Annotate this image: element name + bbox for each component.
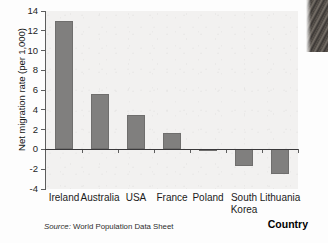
bar bbox=[55, 21, 74, 150]
paper-grain-texture bbox=[46, 11, 298, 189]
y-tick-label: 12 bbox=[27, 26, 38, 36]
y-tick-label: -2 bbox=[30, 164, 38, 174]
y-tick-mark bbox=[41, 189, 46, 190]
source-caption: Source: World Population Data Sheet bbox=[44, 222, 173, 231]
y-tick-label: 2 bbox=[33, 125, 38, 135]
y-tick-mark bbox=[41, 169, 46, 170]
x-category-label-line2: Korea bbox=[220, 204, 268, 216]
source-value: World Population Data Sheet bbox=[73, 222, 173, 231]
x-tick-mark bbox=[298, 149, 299, 153]
bar bbox=[163, 133, 182, 150]
y-tick-label: 6 bbox=[33, 85, 38, 95]
y-tick-label: 4 bbox=[33, 105, 38, 115]
y-tick-mark bbox=[41, 90, 46, 91]
y-tick-label: 10 bbox=[27, 46, 38, 56]
y-tick-label: 14 bbox=[27, 6, 38, 16]
y-axis-line bbox=[45, 11, 46, 190]
bar bbox=[127, 115, 146, 150]
y-tick-label: 8 bbox=[33, 65, 38, 75]
y-tick-mark bbox=[41, 129, 46, 130]
y-axis-title: Net migration rate (per 1,000) bbox=[16, 10, 27, 170]
x-category-label: Lithuania bbox=[256, 192, 304, 204]
y-tick-mark bbox=[41, 11, 46, 12]
source-label: Source: bbox=[44, 222, 71, 231]
y-tick-label: 0 bbox=[33, 144, 38, 154]
y-tick-mark bbox=[41, 70, 46, 71]
y-tick-mark bbox=[41, 50, 46, 51]
scan-edge-artifact bbox=[306, 0, 328, 52]
bar bbox=[271, 149, 290, 174]
zero-baseline bbox=[45, 149, 298, 150]
bar bbox=[91, 94, 110, 149]
y-tick-label: -4 bbox=[30, 184, 38, 194]
plot-area bbox=[46, 11, 298, 189]
figure-container: 14121086420-2-4 Net migration rate (per … bbox=[0, 0, 328, 243]
x-axis-title: Country bbox=[268, 218, 308, 230]
bar bbox=[235, 149, 254, 166]
y-tick-mark bbox=[41, 109, 46, 110]
y-tick-mark bbox=[41, 30, 46, 31]
